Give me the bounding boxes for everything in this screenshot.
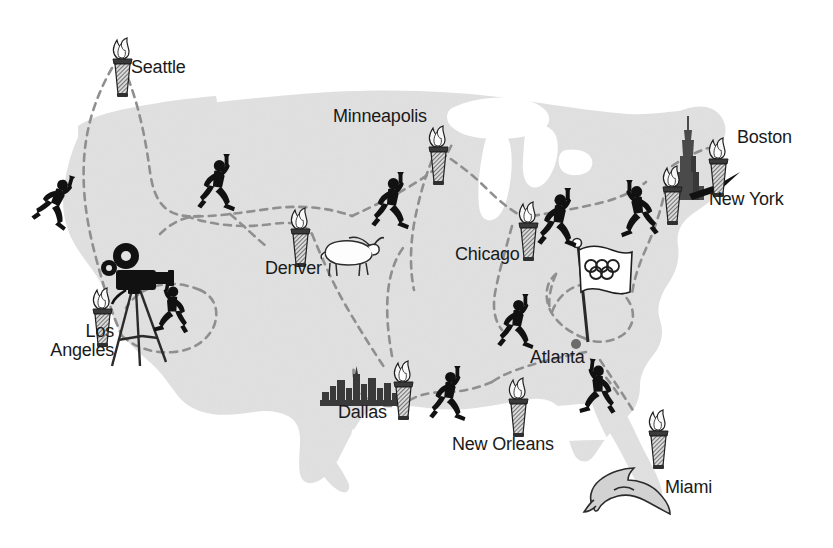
torch-runner-icon-pacific-northwest	[30, 168, 80, 231]
city-label-minneapolis: Minneapolis	[333, 107, 427, 126]
torch-runner-icon-texas	[429, 366, 465, 421]
torch-runner-icon-southeast	[579, 358, 621, 416]
city-label-boston: Boston	[737, 128, 792, 147]
city-label-atlanta: Atlanta	[530, 348, 585, 367]
city-label-chicago: Chicago	[455, 245, 520, 264]
city-label-new-orleans: New Orleans	[452, 435, 554, 454]
city-label-los-angeles-line2: Angeles	[50, 340, 114, 360]
torch-runners	[30, 154, 659, 421]
city-label-new-york: New York	[709, 190, 783, 209]
torch-runner-icon-tennessee	[497, 294, 533, 349]
torch-runner-icon-dakota	[371, 172, 409, 229]
city-label-los-angeles: LosAngeles	[28, 322, 114, 360]
city-label-denver: Denver	[265, 259, 322, 278]
olympic-torch-relay-map: Seattle Minneapolis Boston New York Chic…	[0, 0, 833, 548]
city-label-los-angeles-line1: Los	[86, 321, 114, 341]
city-label-seattle: Seattle	[131, 58, 186, 77]
runner-layer	[0, 0, 833, 548]
torch-runner-icon-california	[153, 279, 195, 336]
city-label-dallas: Dallas	[338, 403, 387, 422]
torch-runner-icon-northeast	[621, 180, 659, 237]
city-label-miami: Miami	[665, 478, 712, 497]
torch-runner-icon-idaho	[197, 154, 235, 211]
torch-runner-icon-great-lakes	[537, 188, 576, 247]
